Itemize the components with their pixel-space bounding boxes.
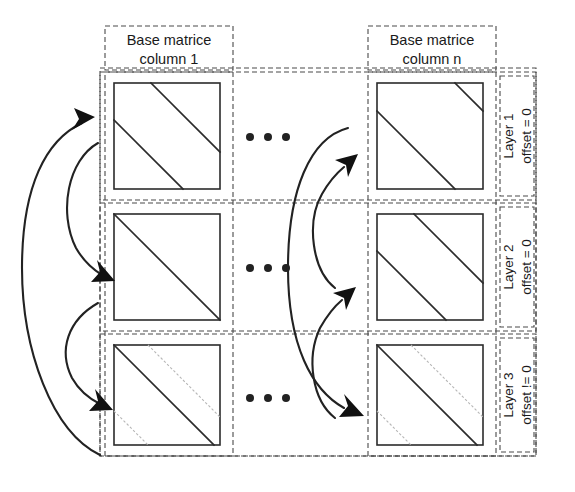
matrix-cell-l1-cn [377, 83, 483, 189]
ellipsis-layer-3 [246, 394, 290, 402]
arrow-left-outer [22, 108, 100, 455]
matrix-cell-l1-c1 [114, 83, 220, 189]
layer-label-3: Layer 3 offset != 0 [501, 365, 534, 424]
diagram-root: Base matrice column 1 Base matrice colum… [0, 0, 575, 492]
diagram-canvas: Base matrice column 1 Base matrice colum… [0, 0, 575, 492]
layer-label-1-name: Layer 1 [501, 113, 516, 158]
layer-label-1: Layer 1 offset = 0 [501, 108, 534, 164]
column-header-n: Base matrice column n [390, 32, 475, 67]
layer-label-3-offset: offset != 0 [519, 365, 534, 424]
arrow-left-mid-1 [67, 143, 115, 282]
column-header-1: Base matrice column 1 [127, 32, 212, 67]
ellipsis-layer-2 [246, 264, 290, 272]
arrow-left-mid-2 [66, 303, 113, 411]
matrix-cell-l3-cn [377, 345, 483, 445]
arrow-mid-inner-1 [313, 154, 358, 288]
layer-label-1-offset: offset = 0 [519, 108, 534, 164]
layer-label-2-offset: offset = 0 [519, 239, 534, 295]
layer-label-2-name: Layer 2 [501, 244, 516, 289]
layer-label-3-name: Layer 3 [501, 372, 516, 417]
column-header-n-line1: Base matrice [390, 32, 475, 48]
column-header-n-line2: column n [403, 51, 462, 67]
matrix-cell-l2-c1 [114, 214, 220, 320]
arrow-mid-inner-2 [313, 287, 356, 418]
ellipsis-layer-1 [246, 133, 290, 141]
column-header-1-line2: column 1 [140, 51, 199, 67]
arrow-mid-outer [288, 128, 364, 417]
matrix-cell-l2-cn [377, 214, 483, 320]
layer-label-2: Layer 2 offset = 0 [501, 239, 534, 295]
column-header-1-line1: Base matrice [127, 32, 212, 48]
matrix-cell-l3-c1 [114, 345, 220, 445]
